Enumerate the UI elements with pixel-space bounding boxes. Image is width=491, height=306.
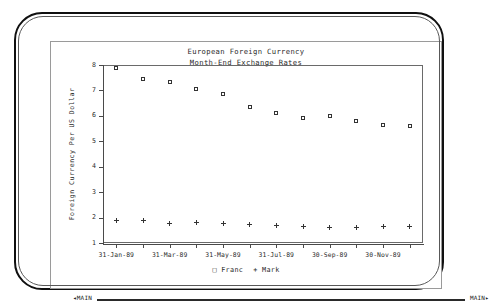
data-point-mark (354, 225, 359, 230)
data-point-franc (354, 119, 358, 123)
chart-legend: □ Franc+ Mark (51, 266, 441, 274)
legend-label: Franc (217, 266, 243, 274)
legend-entry-franc: □ Franc (212, 266, 243, 274)
y-axis-title: Foreign Currency Per US Dollar (68, 79, 76, 229)
data-point-mark (221, 221, 226, 226)
y-tick-label: 5 (76, 138, 96, 145)
data-point-franc (194, 87, 198, 91)
x-tick (116, 244, 117, 248)
data-point-franc (114, 66, 118, 70)
status-bar-rule (97, 299, 465, 301)
data-point-franc (141, 77, 145, 81)
y-tick-label: 7 (76, 87, 96, 94)
data-point-franc (301, 116, 305, 120)
x-tick (223, 244, 224, 248)
data-point-franc (248, 105, 252, 109)
data-point-mark (247, 222, 252, 227)
x-tick (170, 244, 171, 248)
data-point-mark (141, 218, 146, 223)
plot-data-area (103, 65, 423, 243)
data-point-franc (221, 92, 225, 96)
legend-label: Mark (258, 266, 280, 274)
x-tick-label: 31-May-89 (193, 251, 253, 259)
y-tick-label: 2 (76, 214, 96, 221)
x-axis-line (103, 244, 424, 245)
data-point-mark (327, 225, 332, 230)
data-point-franc (274, 111, 278, 115)
data-point-mark (274, 223, 279, 228)
x-tick (143, 244, 144, 248)
y-tick-label: 3 (76, 189, 96, 196)
data-point-mark (167, 221, 172, 226)
x-tick-label: 31-Mar-89 (140, 251, 200, 259)
legend-entry-mark: + Mark (253, 266, 279, 274)
right-arrow-icon: ▸ (485, 294, 489, 301)
x-tick-label: 31-Jan-89 (86, 251, 146, 259)
x-tick (410, 244, 411, 248)
x-tick (383, 244, 384, 248)
y-tick-label: 8 (76, 62, 96, 69)
y-tick-label: 1 (76, 240, 96, 247)
data-point-franc (328, 114, 332, 118)
x-tick (330, 244, 331, 248)
status-bar: ◂MAIN MAIN▸ (71, 294, 491, 305)
x-tick (276, 244, 277, 248)
x-tick (356, 244, 357, 248)
status-right-label: MAIN (470, 294, 485, 301)
data-point-mark (407, 224, 412, 229)
data-point-mark (301, 224, 306, 229)
x-tick-label: 31-Jul-89 (246, 251, 306, 259)
x-tick-label: 30-Sep-89 (300, 251, 360, 259)
status-key-main-left[interactable]: ◂MAIN (73, 294, 92, 301)
y-tick-label: 6 (76, 112, 96, 119)
data-point-mark (114, 218, 119, 223)
status-left-label: MAIN (77, 294, 92, 301)
status-key-main-right[interactable]: MAIN▸ (470, 294, 489, 301)
chart-title: European Foreign Currency (51, 46, 441, 57)
crt-monitor-bezel: European Foreign Currency Month-End Exch… (14, 12, 444, 290)
data-point-franc (168, 80, 172, 84)
data-point-franc (408, 124, 412, 128)
x-tick (303, 244, 304, 248)
x-tick (250, 244, 251, 248)
y-tick-label: 4 (76, 163, 96, 170)
data-point-franc (381, 123, 385, 127)
x-tick-label: 30-Nov-89 (353, 251, 413, 259)
data-point-mark (194, 220, 199, 225)
terminal-screen: European Foreign Currency Month-End Exch… (50, 41, 442, 289)
x-tick (196, 244, 197, 248)
data-point-mark (381, 224, 386, 229)
y-tick (99, 243, 104, 244)
